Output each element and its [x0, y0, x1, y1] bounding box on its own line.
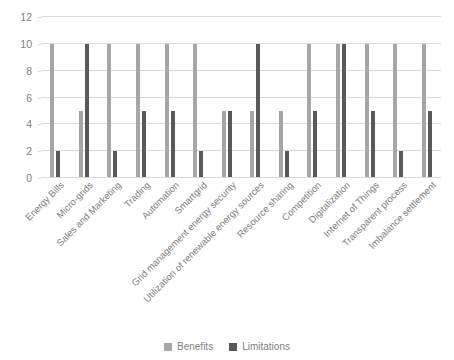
bar-group: [307, 17, 317, 178]
legend-label: Limitations: [242, 342, 290, 352]
bar-limitations: [313, 111, 317, 178]
gridline: [41, 16, 441, 17]
chart-legend: BenefitsLimitations: [0, 342, 454, 352]
y-axis-tick-label: 0: [6, 173, 32, 184]
y-axis-tick-label: 4: [6, 119, 32, 130]
bar-benefits: [393, 44, 397, 178]
bar-limitations: [199, 151, 203, 178]
bar-group: [393, 17, 403, 178]
bar-benefits: [136, 44, 140, 178]
y-axis-tick-label: 8: [6, 66, 32, 77]
bar-group: [279, 17, 289, 178]
bar-benefits: [165, 44, 169, 178]
bar-group: [250, 17, 260, 178]
bar-chart: 024681012 Energy BillsMicro-gridsSales a…: [0, 0, 454, 360]
bar-benefits: [422, 44, 426, 178]
bar-limitations: [399, 151, 403, 178]
plot-area: [41, 17, 441, 178]
bar-benefits: [222, 111, 226, 178]
gridline: [41, 123, 441, 124]
bar-group: [79, 17, 89, 178]
bar-group: [222, 17, 232, 178]
bar-limitations: [228, 111, 232, 178]
bar-group: [165, 17, 175, 178]
y-axis-tick-mark: [38, 178, 41, 179]
bar-benefits: [365, 44, 369, 178]
bar-group: [365, 17, 375, 178]
gridline: [41, 150, 441, 151]
bar-group: [422, 17, 432, 178]
bar-limitations: [56, 151, 60, 178]
bar-limitations: [113, 151, 117, 178]
bar-benefits: [50, 44, 54, 178]
bar-limitations: [142, 111, 146, 178]
legend-item[interactable]: Benefits: [164, 342, 213, 352]
bar-benefits: [79, 111, 83, 178]
bar-limitations: [428, 111, 432, 178]
bar-group: [336, 17, 346, 178]
bar-limitations: [256, 44, 260, 178]
bar-group: [107, 17, 117, 178]
y-axis-tick-label: 12: [6, 12, 32, 23]
gridline: [41, 97, 441, 98]
bar-benefits: [250, 111, 254, 178]
y-axis-tick-label: 2: [6, 146, 32, 157]
legend-swatch-icon: [164, 343, 172, 351]
bar-limitations: [85, 44, 89, 178]
y-axis-tick-label: 10: [6, 39, 32, 50]
bar-limitations: [285, 151, 289, 178]
legend-swatch-icon: [229, 343, 237, 351]
bar-limitations: [171, 111, 175, 178]
bar-benefits: [336, 44, 340, 178]
bar-benefits: [307, 44, 311, 178]
bar-benefits: [107, 44, 111, 178]
axis-baseline: [41, 177, 441, 178]
legend-label: Benefits: [177, 342, 213, 352]
bar-group: [193, 17, 203, 178]
bar-group: [136, 17, 146, 178]
legend-item[interactable]: Limitations: [229, 342, 290, 352]
bar-benefits: [279, 111, 283, 178]
gridline: [41, 70, 441, 71]
y-axis-tick-label: 6: [6, 93, 32, 104]
bar-limitations: [342, 44, 346, 178]
bar-benefits: [193, 44, 197, 178]
x-axis-category-labels: Energy BillsMicro-gridsSales and Marketi…: [41, 180, 441, 320]
bar-limitations: [371, 111, 375, 178]
bar-group: [50, 17, 60, 178]
gridline: [41, 43, 441, 44]
